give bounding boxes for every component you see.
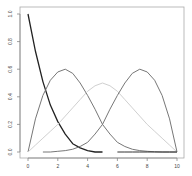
y-tick-label: 0.6 (7, 66, 13, 73)
series-line-basis-1 (28, 14, 103, 152)
x-axis: 0246810 (27, 158, 180, 169)
y-tick-label: 0.2 (7, 121, 13, 128)
y-axis: 0.00.20.40.60.81.0 (7, 10, 20, 155)
x-tick-label: 6 (116, 163, 119, 169)
y-tick-label: 0.0 (7, 148, 13, 155)
y-tick-label: 0.4 (7, 93, 13, 100)
series-line-basis-3 (28, 83, 177, 152)
x-tick-label: 2 (56, 163, 59, 169)
x-tick-label: 8 (146, 163, 149, 169)
x-tick-label: 10 (174, 163, 180, 169)
x-tick-label: 4 (86, 163, 89, 169)
y-tick-label: 0.8 (7, 38, 13, 45)
series-layer (28, 14, 177, 152)
y-tick-label: 1.0 (7, 10, 13, 17)
line-chart: 0.00.20.40.60.81.0 0246810 (0, 0, 192, 176)
x-tick-label: 0 (27, 163, 30, 169)
series-line-basis-2 (28, 69, 177, 152)
series-line-basis-4 (43, 69, 177, 152)
